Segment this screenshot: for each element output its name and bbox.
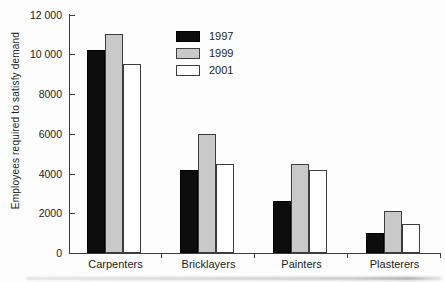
- y-tick-mark: [69, 15, 75, 16]
- bar-2001-plasterers: [402, 224, 420, 253]
- y-tick-mark: [69, 94, 75, 95]
- bar-1997-carpenters: [87, 50, 105, 253]
- bar-1999-plasterers: [384, 211, 402, 253]
- bar-1997-painters: [273, 201, 291, 253]
- y-tick-mark: [69, 174, 75, 175]
- legend-label-1997: 1997: [209, 31, 233, 42]
- bar-1997-bricklayers: [180, 170, 198, 253]
- y-tick-mark: [69, 134, 75, 135]
- y-tick-label: 0: [14, 247, 62, 259]
- legend-swatch-2001: [176, 65, 200, 76]
- y-tick-label: 4000: [14, 168, 62, 180]
- y-tick-mark: [69, 54, 75, 55]
- y-tick-label: 10 000: [14, 48, 62, 60]
- bar-1999-painters: [291, 164, 309, 253]
- bar-1999-bricklayers: [198, 134, 216, 253]
- bar-2001-painters: [309, 170, 327, 253]
- legend-item-1999: 1999: [176, 48, 233, 59]
- bar-1997-plasterers: [366, 233, 384, 253]
- bar-1999-carpenters: [105, 34, 123, 253]
- y-tick-label: 2000: [14, 207, 62, 219]
- scan-artifact-smudge: [26, 277, 442, 280]
- bar-2001-carpenters: [123, 64, 141, 253]
- y-tick-label: 8000: [14, 88, 62, 100]
- y-axis-title: Employees required to satisfy demand: [10, 1, 23, 241]
- category-label-painters: Painters: [255, 258, 348, 272]
- legend: 199719992001: [176, 31, 233, 82]
- category-label-plasterers: Plasterers: [348, 258, 441, 272]
- legend-item-2001: 2001: [176, 65, 233, 76]
- y-tick-mark: [69, 213, 75, 214]
- bar-2001-bricklayers: [216, 164, 234, 253]
- legend-label-2001: 2001: [209, 65, 233, 76]
- category-label-bricklayers: Bricklayers: [162, 258, 255, 272]
- x-axis-line: [69, 253, 441, 254]
- y-tick-label: 12 000: [14, 9, 62, 21]
- legend-swatch-1999: [176, 48, 200, 59]
- bar-chart-figure: Employees required to satisfy demand 020…: [0, 0, 445, 282]
- y-tick-label: 6000: [14, 128, 62, 140]
- category-label-carpenters: Carpenters: [69, 258, 162, 272]
- legend-item-1997: 1997: [176, 31, 233, 42]
- legend-swatch-1997: [176, 31, 200, 42]
- legend-label-1999: 1999: [209, 48, 233, 59]
